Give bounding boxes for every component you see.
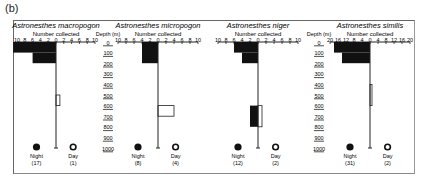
depth-tick-label: 600 <box>103 103 112 109</box>
depth-tick-label: 300 <box>103 71 112 77</box>
day-count: (4) <box>172 160 179 166</box>
day-symbol-icon <box>70 144 76 150</box>
day-symbol-icon <box>385 144 391 150</box>
day-label: Day <box>383 153 393 159</box>
depth-tick-label: 800 <box>103 124 112 130</box>
night-bar <box>342 53 370 64</box>
day-count: (2) <box>384 160 391 166</box>
night-bar <box>242 53 258 64</box>
day-bar <box>56 95 60 106</box>
species-title: Astronesthes similis <box>336 21 404 30</box>
depth-tick-label: 400 <box>103 82 112 88</box>
night-bar <box>334 42 370 53</box>
depth-tick-label: 800 <box>314 124 323 130</box>
day-symbol-icon <box>173 144 179 150</box>
species-title: Astronesthes micropogon <box>114 21 200 30</box>
depth-tick-label: 0 <box>106 40 109 46</box>
night-label: Night <box>344 153 357 159</box>
depth-tick-label: 1000 <box>313 146 325 152</box>
species-title: Astronesthes macropogon <box>11 21 100 30</box>
depth-axis-label: Depth (m) <box>96 31 121 37</box>
depth-tick-label: 100 <box>314 50 323 56</box>
depth-distribution-chart: Astronesthes macropogonNumber collected1… <box>0 0 422 181</box>
depth-tick-label: 600 <box>314 103 323 109</box>
night-count: (17) <box>32 160 42 166</box>
depth-tick-label: 300 <box>314 71 323 77</box>
depth-tick-label: 500 <box>314 93 323 99</box>
night-symbol-icon <box>234 143 241 150</box>
night-bar <box>250 106 258 127</box>
day-label: Day <box>68 153 78 159</box>
depth-tick-label: 200 <box>103 61 112 67</box>
day-bar <box>158 106 174 117</box>
depth-tick-label: 900 <box>103 135 112 141</box>
day-label: Day <box>171 153 181 159</box>
depth-tick-label: 200 <box>314 61 323 67</box>
depth-tick-label: 100 <box>103 50 112 56</box>
depth-tick-label: 700 <box>314 114 323 120</box>
night-label: Night <box>232 153 245 159</box>
night-count: (8) <box>135 160 142 166</box>
day-bar <box>258 106 262 127</box>
night-bar <box>33 53 56 64</box>
depth-axis-label: Depth (m) <box>307 31 332 37</box>
night-label: Night <box>132 153 145 159</box>
depth-tick-label: 700 <box>103 114 112 120</box>
night-count: (31) <box>345 160 355 166</box>
night-bar <box>234 42 258 53</box>
night-symbol-icon <box>33 143 40 150</box>
night-bar <box>13 42 56 53</box>
night-symbol-icon <box>346 143 353 150</box>
depth-tick-label: 0 <box>317 40 320 46</box>
night-bar <box>142 42 158 63</box>
species-title: Astronesthes niger <box>226 21 290 30</box>
night-symbol-icon <box>134 143 141 150</box>
day-count: (2) <box>272 160 279 166</box>
depth-tick-label: 400 <box>314 82 323 88</box>
depth-tick-label: 1000 <box>102 146 114 152</box>
depth-tick-label: 500 <box>103 93 112 99</box>
day-count: (1) <box>70 160 77 166</box>
depth-tick-label: 900 <box>314 135 323 141</box>
day-symbol-icon <box>273 144 279 150</box>
night-label: Night <box>30 153 43 159</box>
night-count: (12) <box>233 160 243 166</box>
day-label: Day <box>271 153 281 159</box>
